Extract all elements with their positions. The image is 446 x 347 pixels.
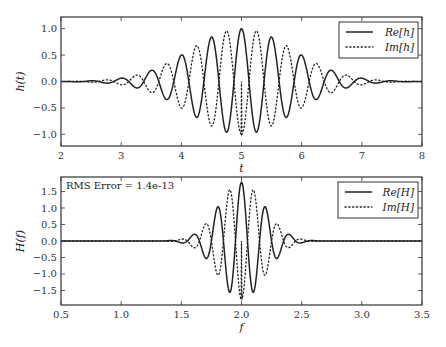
x-tick-label: 3.0 [354, 309, 370, 320]
bottom-plot-H-of-f: 0.51.01.52.02.53.03.51.51.00.50.0−0.5−1.… [14, 177, 430, 334]
rms-error-annotation: RMS Error = 1.4e-13 [66, 180, 174, 191]
y-tick-label: −1.5 [33, 285, 57, 296]
y-tick-label: −0.5 [33, 252, 57, 263]
legend-label: Re[h] [384, 26, 415, 38]
x-tick-label: 2 [58, 150, 64, 161]
x-tick-label: 7 [359, 150, 365, 161]
y-axis-label: H(f) [14, 230, 27, 253]
x-tick-label: 5 [238, 150, 244, 161]
y-tick-label: −1.0 [33, 129, 57, 140]
legend: Re[h]Im[h] [339, 22, 418, 58]
y-tick-label: 0.5 [41, 50, 57, 61]
y-tick-label: 0.0 [41, 76, 57, 87]
y-tick-label: 1.5 [41, 186, 57, 197]
legend-label: Re[H] [382, 186, 415, 198]
y-tick-label: −0.5 [33, 102, 57, 113]
x-tick-label: 4 [178, 150, 184, 161]
y-tick-label: 1.0 [41, 203, 57, 214]
x-tick-label: 0.5 [53, 309, 69, 320]
y-tick-label: 0.5 [41, 219, 57, 230]
x-axis-label: f [238, 321, 245, 334]
x-tick-label: 2.0 [234, 309, 250, 320]
x-tick-label: 6 [298, 150, 304, 161]
x-tick-label: 3.5 [414, 309, 430, 320]
legend-label: Im[h] [384, 41, 415, 53]
figure: 23456781.00.50.0−0.5−1.0th(t)Re[h]Im[h] … [0, 0, 446, 347]
x-tick-label: 3 [118, 150, 124, 161]
y-axis-label: h(t) [14, 71, 27, 91]
x-tick-label: 1.5 [173, 309, 189, 320]
legend-label: Im[H] [382, 201, 415, 213]
y-tick-label: −1.0 [33, 268, 57, 279]
x-axis-label: t [239, 162, 244, 175]
legend: Re[H]Im[H] [338, 182, 418, 218]
y-tick-label: 1.0 [41, 23, 57, 34]
y-tick-label: 0.0 [41, 236, 57, 247]
top-plot-h-of-t: 23456781.00.50.0−0.5−1.0th(t)Re[h]Im[h] [14, 17, 425, 175]
x-tick-label: 2.5 [294, 309, 310, 320]
x-tick-label: 1.0 [113, 309, 129, 320]
x-tick-label: 8 [419, 150, 425, 161]
